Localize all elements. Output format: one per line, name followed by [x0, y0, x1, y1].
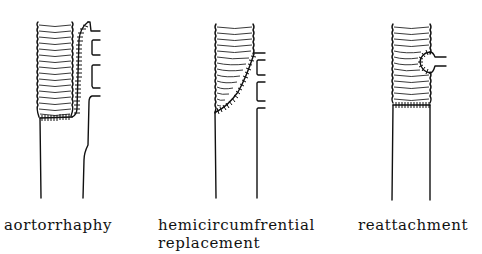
- panel-reattachment: [392, 24, 446, 200]
- aorta-wall-right: [83, 96, 100, 198]
- label-reattachment: reattachment: [358, 216, 468, 234]
- branch-vessel: [257, 82, 265, 101]
- branch-vessel: [430, 66, 446, 73]
- corrugated-graft-icon: [392, 24, 431, 103]
- panel-aortorrhaphy: [37, 22, 100, 198]
- branch-vessel: [92, 65, 100, 88]
- aorta-wall-right: [257, 108, 265, 198]
- branch-vessel: [92, 40, 100, 55]
- oblique-suture-line: [216, 54, 254, 112]
- branch-vessel: [88, 22, 100, 31]
- panel-hemicircumferential-replacement: [215, 24, 265, 198]
- label-aortorrhaphy: aortorrhaphy: [4, 216, 112, 234]
- label-hemicircumferential-replacement: hemicircumfrential replacement: [158, 216, 315, 252]
- branch-vessel: [430, 52, 446, 57]
- label-line-2: replacement: [158, 234, 315, 252]
- side-suture-stitches: [74, 25, 88, 113]
- corrugated-graft-icon: [37, 22, 73, 117]
- branch-vessel: [257, 60, 265, 75]
- aorta-wall-left: [392, 105, 393, 200]
- aorta-wall-left: [215, 112, 216, 198]
- aorta-wall-left: [40, 118, 41, 198]
- label-line-1: hemicircumfrential: [158, 216, 315, 234]
